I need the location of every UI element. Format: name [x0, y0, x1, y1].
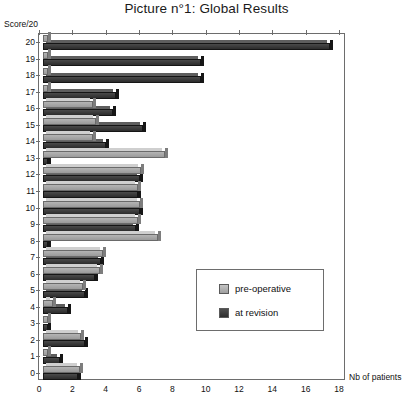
y-tick-mark — [36, 224, 40, 225]
bar-pre-operative-score-13 — [43, 151, 165, 158]
y-tick-label: 10 — [26, 203, 35, 213]
y-tick-label: 18 — [26, 70, 35, 80]
bar-front-face — [43, 43, 330, 50]
x-tick-mark — [72, 30, 73, 35]
legend-label: at revision — [235, 307, 278, 318]
y-tick-label: 0 — [30, 368, 35, 378]
bar-pre-operative-score-5 — [43, 283, 83, 290]
bar-front-face — [43, 366, 80, 373]
bar-side-face — [143, 122, 146, 132]
bar-at-revision-score-20 — [43, 43, 330, 50]
x-tick-mark — [272, 30, 273, 35]
bar-side-face — [48, 82, 51, 92]
bar-side-face — [48, 346, 51, 356]
bar-side-face — [138, 181, 141, 191]
bar-front-face — [43, 267, 100, 274]
y-tick-label: 16 — [26, 103, 35, 113]
bar-pre-operative-score-11 — [43, 184, 138, 191]
bar-front-face — [43, 333, 81, 340]
x-tick-label: 6 — [137, 384, 142, 394]
bar-pre-operative-score-3 — [43, 316, 48, 323]
bar-side-face — [83, 280, 86, 290]
bar-side-face — [48, 65, 51, 75]
y-tick-mark — [36, 75, 40, 76]
legend-label: pre-operative — [235, 283, 291, 294]
y-tick-mark — [36, 92, 40, 93]
bar-front-face — [43, 316, 48, 323]
bar-pre-operative-score-9 — [43, 217, 138, 224]
bar-front-face — [43, 76, 201, 83]
bar-side-face — [93, 131, 96, 141]
x-tick-mark — [306, 30, 307, 35]
y-tick-label: 9 — [30, 219, 35, 229]
chart-title: Picture n°1: Global Results — [0, 1, 413, 16]
x-axis-label: Nb of patients — [349, 372, 401, 382]
y-tick-label: 2 — [30, 335, 35, 345]
bar-pre-operative-score-17 — [43, 85, 48, 92]
y-tick-label: 8 — [30, 236, 35, 246]
bar-front-face — [43, 118, 96, 125]
bar-side-face — [165, 148, 168, 158]
x-tick-label: 12 — [234, 384, 243, 394]
x-tick-label: 14 — [268, 384, 277, 394]
y-tick-mark — [36, 373, 40, 374]
bar-side-face — [68, 304, 71, 314]
x-tick-label: 0 — [37, 384, 42, 394]
bar-side-face — [48, 49, 51, 59]
bar-front-face — [43, 134, 93, 141]
bar-pre-operative-score-18 — [43, 68, 48, 75]
x-tick-mark — [39, 30, 40, 35]
bar-front-face — [43, 68, 48, 75]
bar-pre-operative-score-19 — [43, 52, 48, 59]
y-tick-mark — [36, 191, 40, 192]
bar-side-face — [100, 264, 103, 274]
chart-legend: pre-operative at revision — [196, 269, 324, 331]
bar-side-face — [96, 115, 99, 125]
bar-front-face — [43, 85, 48, 92]
bar-front-face — [43, 373, 78, 380]
y-tick-mark — [36, 125, 40, 126]
bar-front-face — [43, 167, 141, 174]
y-tick-label: 17 — [26, 87, 35, 97]
bar-pre-operative-score-10 — [43, 201, 140, 208]
y-tick-mark — [36, 42, 40, 43]
bar-pre-operative-score-15 — [43, 118, 96, 125]
bar-side-face — [81, 330, 84, 340]
x-tick-mark — [106, 30, 107, 35]
bar-side-face — [138, 214, 141, 224]
x-tick-mark — [139, 30, 140, 35]
bar-front-face — [43, 300, 53, 307]
y-tick-mark — [36, 290, 40, 291]
y-tick-mark — [36, 174, 40, 175]
bar-side-face — [330, 40, 333, 50]
bar-side-face — [201, 56, 204, 66]
bar-front-face — [43, 307, 68, 314]
bar-at-revision-score-4 — [43, 307, 68, 314]
y-tick-mark — [36, 274, 40, 275]
bar-front-face — [43, 101, 93, 108]
x-tick-mark — [239, 30, 240, 35]
legend-swatch-icon — [219, 284, 229, 294]
bar-front-face — [43, 52, 48, 59]
bar-front-face — [43, 234, 158, 241]
y-tick-label: 12 — [26, 169, 35, 179]
x-tick-label: 4 — [103, 384, 108, 394]
bar-front-face — [43, 191, 138, 198]
y-tick-mark — [36, 356, 40, 357]
y-tick-mark — [36, 108, 40, 109]
bar-pre-operative-score-4 — [43, 300, 53, 307]
bar-pre-operative-score-6 — [43, 267, 100, 274]
bar-front-face — [43, 35, 48, 42]
bar-side-face — [116, 89, 119, 99]
bar-side-face — [85, 337, 88, 347]
y-tick-label: 13 — [26, 153, 35, 163]
y-tick-label: 11 — [26, 186, 35, 196]
y-tick-label: 6 — [30, 269, 35, 279]
bar-side-face — [158, 231, 161, 241]
bar-front-face — [43, 151, 165, 158]
y-tick-mark — [36, 307, 40, 308]
bar-side-face — [103, 247, 106, 257]
bar-side-face — [80, 363, 83, 373]
bar-pre-operative-score-12 — [43, 167, 141, 174]
y-tick-mark — [36, 340, 40, 341]
